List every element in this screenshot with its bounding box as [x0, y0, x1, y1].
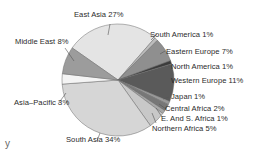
label-south-asia: South Asia 34% [66, 136, 120, 144]
label-middle-east: Middle East 8% [15, 38, 68, 46]
label-japan: Japan 1% [171, 93, 205, 101]
label-asia-pacific: Asia–Pacific 3% [14, 99, 69, 107]
label-north-america: North America 1% [171, 63, 233, 71]
label-northern-africa: Northern Africa 5% [152, 125, 217, 133]
stray-text: y [5, 139, 10, 149]
label-central-africa: Central Africa 2% [165, 105, 225, 113]
label-east-asia: East Asia 27% [74, 11, 124, 19]
label-western-europe: Western Europe 11% [171, 77, 243, 85]
label-south-america: South America 1% [150, 31, 213, 39]
label-e-s-africa: E. And S. Africa 1% [161, 115, 228, 123]
pie-slices [62, 24, 174, 136]
label-eastern-europe: Eastern Europe 7% [166, 48, 233, 56]
